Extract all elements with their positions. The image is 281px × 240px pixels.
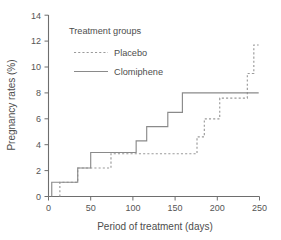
legend-label-placebo: Placebo xyxy=(114,48,147,58)
chart-background xyxy=(0,0,281,240)
y-tick-label-12: 12 xyxy=(31,36,41,46)
x-tick-label-150: 150 xyxy=(168,203,183,213)
y-tick-label-10: 10 xyxy=(31,62,41,72)
chart-figure: 0 2 4 6 8 10 12 14 0 50 100 150 200 250 … xyxy=(0,0,281,240)
y-tick-label-4: 4 xyxy=(36,140,41,150)
x-tick-label-250: 250 xyxy=(252,203,267,213)
y-tick-label-14: 14 xyxy=(31,11,41,21)
x-tick-label-50: 50 xyxy=(86,203,96,213)
y-tick-label-2: 2 xyxy=(36,166,41,176)
x-tick-label-200: 200 xyxy=(210,203,225,213)
x-tick-label-0: 0 xyxy=(46,203,51,213)
y-tick-label-6: 6 xyxy=(36,114,41,124)
x-axis-title: Period of treatment (days) xyxy=(97,221,213,232)
legend-label-clomiphene: Clomiphene xyxy=(114,67,163,77)
x-tick-label-100: 100 xyxy=(125,203,140,213)
y-tick-label-8: 8 xyxy=(36,88,41,98)
y-axis-title: Pregnancy rates (%) xyxy=(6,59,17,150)
y-tick-label-0: 0 xyxy=(36,192,41,202)
legend-title: Treatment groups xyxy=(69,26,142,36)
pregnancy-rates-step-chart: 0 2 4 6 8 10 12 14 0 50 100 150 200 250 … xyxy=(0,0,281,240)
